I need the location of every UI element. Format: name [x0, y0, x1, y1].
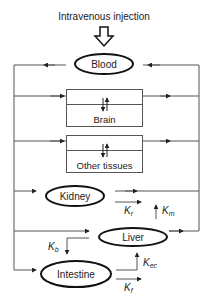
liver-compartment: Liver [99, 228, 167, 246]
blood-compartment: Blood [75, 54, 133, 74]
intestine-compartment: Intestine [41, 261, 111, 287]
kidney-label: Kidney [60, 191, 91, 202]
other-tissues-label: Other tissues [77, 160, 133, 171]
brain-label: Brain [93, 114, 115, 125]
other-tissues-compartment: Other tissues [67, 136, 143, 173]
kb-label: Kb [48, 241, 59, 253]
blood-label: Blood [91, 59, 117, 70]
kidney-compartment: Kidney [46, 186, 104, 206]
kf-label: Kf [124, 282, 134, 294]
km-label: Km [162, 205, 175, 217]
kec-label: Kec [143, 257, 158, 269]
kr-label: Kr [124, 205, 134, 217]
liver-label: Liver [122, 232, 144, 243]
injection-arrow-icon [95, 27, 113, 46]
pk-model-diagram: Intravenous injection Blood [0, 0, 209, 306]
brain-compartment: Brain [67, 90, 143, 127]
intestine-label: Intestine [57, 269, 95, 280]
title-label: Intravenous injection [58, 11, 150, 22]
